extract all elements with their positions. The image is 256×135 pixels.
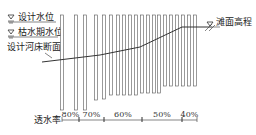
pile [194,15,197,86]
pile [117,15,120,95]
pile [153,15,156,93]
pile [182,15,185,86]
pile [147,15,150,93]
pile [75,15,78,110]
design-water-level: 设计水位 [8,11,56,23]
pile [158,15,161,93]
beach-elevation: 滩面高程 [205,16,252,31]
elevation-icon [207,22,213,26]
permeability-value: 70% [83,110,101,119]
permeability-value: 80% [62,110,80,119]
water-level-icon [8,30,14,34]
pile [61,15,64,110]
pile [176,15,179,86]
pile [110,15,113,95]
leader-line [45,53,52,58]
pile-group [61,15,197,110]
riverbed-section-label: 设计河床断面 [7,41,61,52]
permeability-value: 50% [153,110,171,119]
pile [103,15,106,99]
permeable-pile-dike-diagram: 设计水位 枯水期水位 设计河床断面 滩面高程 透水率 80%70%60%50%4… [0,0,256,135]
pile [188,15,191,86]
pile [141,15,144,93]
pile [164,15,167,86]
pile [84,15,87,110]
pile [123,15,126,95]
permeability-label: 透水率 [34,114,61,125]
dry-season-water-level-label: 枯水期水位 [18,26,63,37]
riverbed-section-line [42,27,212,62]
beach-elevation-label: 滩面高程 [216,16,252,27]
design-water-level-label: 设计水位 [18,11,54,22]
dry-season-water-level: 枯水期水位 [8,26,63,38]
water-level-icon [8,15,14,19]
pile [95,15,98,100]
permeability-value: 40% [181,110,199,119]
pile [129,15,132,95]
permeability-zones: 80%70%60%50%40% [62,110,199,122]
permeability-value: 60% [114,110,132,119]
pile [135,15,138,95]
pile [170,15,173,86]
